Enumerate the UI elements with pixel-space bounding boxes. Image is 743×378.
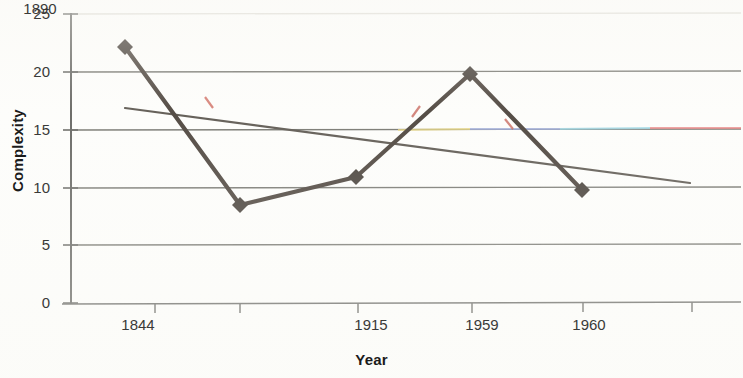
gridline-5 (71, 244, 741, 245)
axes-lines (62, 13, 741, 304)
artifact-cyan (560, 128, 650, 129)
gridline-10 (71, 187, 741, 188)
artifact-red-streak-mid (412, 106, 420, 117)
gridline-20 (71, 71, 741, 72)
x-tick-label-1915: 1915 (331, 316, 411, 333)
y-tick-label-0: 0 (10, 294, 50, 311)
x-axis-title: Year (0, 351, 743, 368)
x-tick-label-1959: 1959 (442, 316, 522, 333)
gridline-25 (71, 13, 741, 14)
x-tick-label-1844: 1844 (98, 316, 178, 333)
x-axis-line (62, 302, 741, 304)
trendline (125, 108, 690, 183)
artifact-red-streak-right (505, 119, 513, 129)
scan-artifact (205, 97, 741, 130)
x-tick-label-1890: 1890 (0, 0, 80, 17)
chart-figure: 25 20 15 10 5 0 1844 1890 1915 1959 1960… (0, 0, 743, 378)
artifact-red-streak-left (205, 97, 213, 108)
y-tick-label-20: 20 (10, 63, 50, 80)
y-axis-title: Complexity (9, 101, 26, 201)
y-tick-label-5: 5 (10, 236, 50, 253)
x-tick-label-1960: 1960 (549, 316, 629, 333)
